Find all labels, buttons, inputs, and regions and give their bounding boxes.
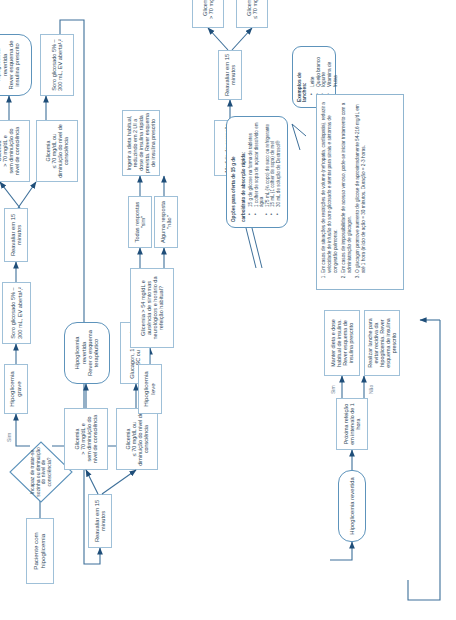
list-item: Iogurte — [321, 52, 326, 93]
list-item: 15 g de glicose na forma de tabletes — [248, 122, 253, 213]
node-habitual-diet: Ingerir a dieta habitual, reduzindo em 2… — [122, 110, 160, 176]
list-item: 15 mL (1 colher de sopa) de mel — [270, 122, 275, 213]
list-item: 175 mL (¾ copo) de suco ou refrigerante — [265, 122, 270, 213]
list-item: 30 mL de solução de Dextrosol® — [276, 122, 281, 213]
node-some-answer-no: Alguma resposta "não" — [154, 196, 178, 248]
node-hypo-reverted-3: Hipoglicemia revertida — [338, 470, 366, 542]
flowchart-canvas-wrapper: Paciente com hipoglicemia Incapaz de tra… — [0, 0, 456, 620]
edge-label-meal-yes: Sim — [330, 385, 336, 394]
node-reassess-15min-3: Reavaliar em 15 minutos — [218, 50, 242, 100]
edge-label-meal-no: Não — [368, 385, 374, 394]
callout-carbs-title: Opções para oferta de 15 g de carboidrat… — [231, 122, 246, 222]
node-glycemia-high-3: Glicemia > 70 mg/dL — [192, 0, 224, 28]
footnote-item: Em casos de situações de restrições de v… — [321, 100, 339, 273]
list-item: Queijo branco — [316, 52, 321, 93]
footnotes-box: Em casos de situações de restrições de v… — [316, 94, 404, 290]
node-snack-to-avoid-relapse: Realizar lanche para evitar recidiva da … — [364, 310, 400, 376]
node-next-meal-interval: Próxima refeição em intervalo de 1 hora — [336, 398, 368, 450]
callout-carbohydrate-options: Opções para oferta de 15 g de carboidrat… — [226, 116, 288, 228]
node-all-answers-yes: Todas respostas "sim" — [128, 196, 152, 248]
list-item: Leite — [310, 52, 315, 93]
footnote-item: Em casos de impossibilidade de acesso ve… — [341, 100, 353, 273]
list-item: 1 colher de sopa de açúcar dissolvido em… — [254, 122, 264, 213]
flowchart-canvas: Paciente com hipoglicemia Incapaz de tra… — [0, 0, 456, 620]
list-item: Vitamina de frutas — [327, 52, 338, 93]
callout-snacks-title: Exemplos de lanches: — [297, 52, 308, 102]
footnotes-list: Em casos de situações de restrições de v… — [321, 100, 367, 284]
callout-carbs-list: 15 g de glicose na forma de tabletes 1 c… — [248, 122, 281, 222]
node-mild-hypoglycemia: Hipoglicemia leve — [138, 364, 162, 414]
node-criteria-check: Glicemia > 54 mg/dL e ausência de sintom… — [130, 268, 174, 348]
node-keep-diet: Manter dieta e dose habitual de insulina… — [324, 310, 360, 376]
footnote-item: O glucagon promove aumento de glicose de… — [355, 100, 367, 273]
node-glycemia-low-3: Glicemia ≤ 70 mg/dL — [236, 0, 268, 28]
